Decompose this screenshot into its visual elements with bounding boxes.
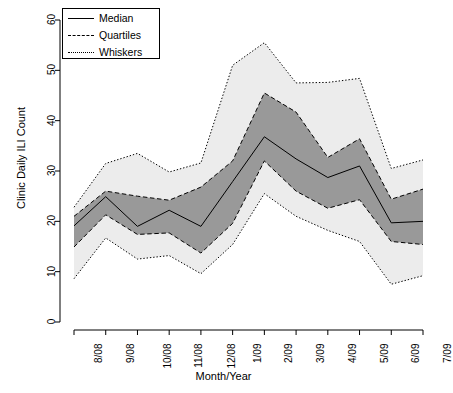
x-tick-label: 12/08	[225, 344, 236, 369]
legend-label-median: Median	[99, 11, 133, 26]
x-tick-label: 5/09	[379, 344, 390, 363]
x-tick-label: 2/09	[283, 344, 294, 363]
y-tick-label: 50	[46, 58, 57, 82]
x-tick-label: 8/08	[93, 344, 104, 363]
x-tick-label: 6/09	[410, 344, 421, 363]
legend-item-quartiles: Quartiles	[68, 28, 159, 43]
y-axis-title: Clinic Daily ILI Count	[15, 63, 27, 253]
legend-swatch-dashed-line-icon	[68, 35, 94, 37]
legend-label-quartiles: Quartiles	[99, 28, 141, 43]
legend-item-whiskers: Whiskers	[68, 45, 159, 60]
legend-swatch-solid-line-icon	[68, 18, 94, 20]
x-tick-label: 11/08	[193, 344, 204, 368]
x-tick-label: 1/09	[252, 344, 263, 363]
data-bands	[74, 43, 423, 285]
legend-label-whiskers: Whiskers	[99, 45, 142, 60]
legend-item-median: Median	[68, 11, 159, 26]
y-tick-label: 30	[46, 159, 57, 183]
x-tick-label: 4/09	[347, 344, 358, 363]
y-tick-label: 20	[46, 209, 57, 233]
y-tick-label: 0	[46, 310, 57, 334]
y-tick-label: 60	[46, 8, 57, 32]
x-tick-label: 3/09	[315, 344, 326, 363]
y-tick-label: 10	[46, 259, 57, 283]
chart-legend: Median Quartiles Whiskers	[62, 8, 160, 59]
x-tick-label: 9/08	[125, 344, 136, 363]
x-tick-label: 7/09	[442, 344, 453, 363]
legend-swatch-dotted-line-icon	[68, 52, 94, 54]
x-tick-label: 10/08	[162, 344, 173, 369]
y-tick-label: 40	[46, 108, 57, 132]
x-axis-title: Month/Year	[0, 370, 447, 382]
